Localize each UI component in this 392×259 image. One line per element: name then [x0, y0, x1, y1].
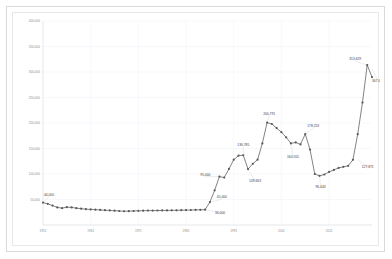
x-axis-tick-label: 1981 [183, 229, 190, 233]
data-point-marker[interactable] [237, 155, 239, 157]
data-point-marker[interactable] [218, 175, 220, 177]
data-point-label: 313,629 [349, 57, 361, 61]
x-axis-tick-label: 2011 [326, 229, 333, 233]
x-axis-tick-label: 1951 [40, 229, 47, 233]
data-point-marker[interactable] [347, 165, 349, 167]
data-point-marker[interactable] [309, 148, 311, 150]
data-point-marker[interactable] [318, 175, 320, 177]
data-point-marker[interactable] [118, 210, 120, 212]
data-point-marker[interactable] [214, 189, 216, 191]
data-point-label: 30,000 [215, 211, 225, 215]
data-point-marker[interactable] [285, 136, 287, 138]
data-point-label: 127,871 [362, 165, 374, 169]
data-point-marker[interactable] [361, 102, 363, 104]
data-point-marker[interactable] [295, 141, 297, 143]
data-point-label: 96,443 [316, 185, 326, 189]
x-axis-tick-label: 1961 [87, 229, 94, 233]
data-point-marker[interactable] [61, 207, 63, 209]
y-axis-tick-label: 350,000 [29, 45, 40, 49]
x-axis-ticks: 1951196119711981199120012011 [40, 229, 333, 233]
data-point-marker[interactable] [247, 168, 249, 170]
y-axis-tick-label: 400,000 [29, 19, 40, 23]
label-leader-lines [43, 61, 378, 212]
data-point-marker[interactable] [314, 173, 316, 175]
data-point-marker[interactable] [47, 203, 49, 205]
data-point-marker[interactable] [280, 131, 282, 133]
data-point-marker[interactable] [194, 209, 196, 211]
data-point-marker[interactable] [304, 133, 306, 135]
data-point-markers[interactable] [42, 64, 373, 212]
data-point-marker[interactable] [256, 159, 258, 161]
data-point-label: 109,663 [249, 179, 261, 183]
data-point-marker[interactable] [228, 168, 230, 170]
data-point-marker[interactable] [94, 209, 96, 211]
data-point-marker[interactable] [175, 209, 177, 211]
data-point-marker[interactable] [371, 76, 373, 78]
data-point-marker[interactable] [290, 142, 292, 144]
data-point-marker[interactable] [42, 201, 44, 203]
x-axis-tick-label: 2001 [278, 229, 285, 233]
data-point-marker[interactable] [128, 210, 130, 212]
data-point-marker[interactable] [271, 123, 273, 125]
y-axis-tick-label: 150,000 [29, 147, 40, 151]
data-point-marker[interactable] [113, 210, 115, 212]
data-point-label: 178,253 [307, 124, 319, 128]
data-point-marker[interactable] [352, 159, 354, 161]
data-point-marker[interactable] [366, 64, 368, 66]
gridlines-group [43, 21, 372, 225]
data-point-marker[interactable] [180, 209, 182, 211]
data-point-label: 95,000 [200, 173, 210, 177]
data-point-marker[interactable] [85, 208, 87, 210]
data-point-marker[interactable] [185, 209, 187, 211]
y-axis-tick-label: 50,000 [31, 198, 41, 202]
data-point-label: 307,088 [372, 79, 380, 83]
data-point-marker[interactable] [342, 166, 344, 168]
data-point-marker[interactable] [90, 208, 92, 210]
data-point-marker[interactable] [66, 206, 68, 208]
y-axis-tick-label: 100,000 [29, 172, 40, 176]
data-point-marker[interactable] [56, 206, 58, 208]
data-point-marker[interactable] [323, 173, 325, 175]
data-point-marker[interactable] [299, 143, 301, 145]
data-point-marker[interactable] [80, 208, 82, 210]
chart-inner-border: 50,000100,000150,000200,000250,000300,00… [12, 12, 379, 246]
data-point-marker[interactable] [137, 210, 139, 212]
data-point-marker[interactable] [75, 207, 77, 209]
data-point-marker[interactable] [156, 209, 158, 211]
data-point-marker[interactable] [132, 210, 134, 212]
data-point-marker[interactable] [328, 171, 330, 173]
data-point-marker[interactable] [142, 210, 144, 212]
data-point-marker[interactable] [109, 209, 111, 211]
data-point-marker[interactable] [99, 209, 101, 211]
data-point-marker[interactable] [333, 169, 335, 171]
data-point-marker[interactable] [252, 163, 254, 165]
data-point-marker[interactable] [71, 206, 73, 208]
data-point-marker[interactable] [209, 201, 211, 203]
data-point-marker[interactable] [357, 133, 359, 135]
data-point-marker[interactable] [242, 154, 244, 156]
line-chart[interactable]: 50,000100,000150,000200,000250,000300,00… [13, 13, 380, 247]
data-point-marker[interactable] [161, 209, 163, 211]
data-point-marker[interactable] [266, 121, 268, 123]
data-point-marker[interactable] [123, 210, 125, 212]
x-axis-tick-label: 1971 [135, 229, 142, 233]
data-point-marker[interactable] [152, 209, 154, 211]
data-point-marker[interactable] [223, 176, 225, 178]
data-series-line [43, 65, 372, 211]
data-point-marker[interactable] [233, 159, 235, 161]
data-point-marker[interactable] [171, 209, 173, 211]
data-point-marker[interactable] [199, 209, 201, 211]
data-point-marker[interactable] [276, 127, 278, 129]
data-point-marker[interactable] [51, 205, 53, 207]
data-point-marker[interactable] [190, 209, 192, 211]
chart-plot-area[interactable]: 50,000100,000150,000200,000250,000300,00… [13, 13, 378, 245]
data-point-marker[interactable] [166, 209, 168, 211]
data-point-label: 45,000 [217, 195, 227, 199]
data-point-marker[interactable] [104, 209, 106, 211]
data-point-marker[interactable] [204, 209, 206, 211]
y-axis-ticks: 50,000100,000150,000200,000250,000300,00… [29, 19, 40, 202]
data-point-marker[interactable] [147, 210, 149, 212]
data-point-marker[interactable] [338, 167, 340, 169]
data-point-marker[interactable] [261, 142, 263, 144]
y-axis-tick-label: 200,000 [29, 121, 40, 125]
